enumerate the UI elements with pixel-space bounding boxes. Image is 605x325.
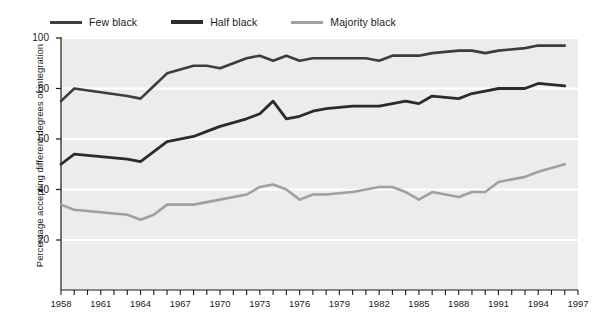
y-tick-label: 100 [23,32,49,43]
x-tick-label: 1964 [124,298,158,309]
x-tick-label: 1958 [44,298,78,309]
y-tick-label: 60 [23,133,49,144]
x-tick-label: 1991 [481,298,515,309]
y-axis-ticks [56,38,61,240]
x-tick-label: 1976 [283,298,317,309]
x-tick-label: 1982 [362,298,396,309]
x-tick-label: 1988 [442,298,476,309]
x-tick-label: 1994 [521,298,555,309]
x-tick-label: 1985 [402,298,436,309]
y-tick-label: 80 [23,83,49,94]
plot-area [0,0,605,325]
x-tick-label: 1970 [203,298,237,309]
x-tick-label: 1967 [163,298,197,309]
y-tick-label: 20 [23,234,49,245]
plot-background [61,37,578,290]
x-tick-label: 1973 [243,298,277,309]
x-tick-label: 1979 [322,298,356,309]
chart-root: Few black Half black Majority black Perc… [0,0,605,325]
x-tick-label: 1961 [84,298,118,309]
y-tick-label: 40 [23,184,49,195]
x-axis-ticks [61,290,578,295]
x-tick-label: 1997 [561,298,595,309]
